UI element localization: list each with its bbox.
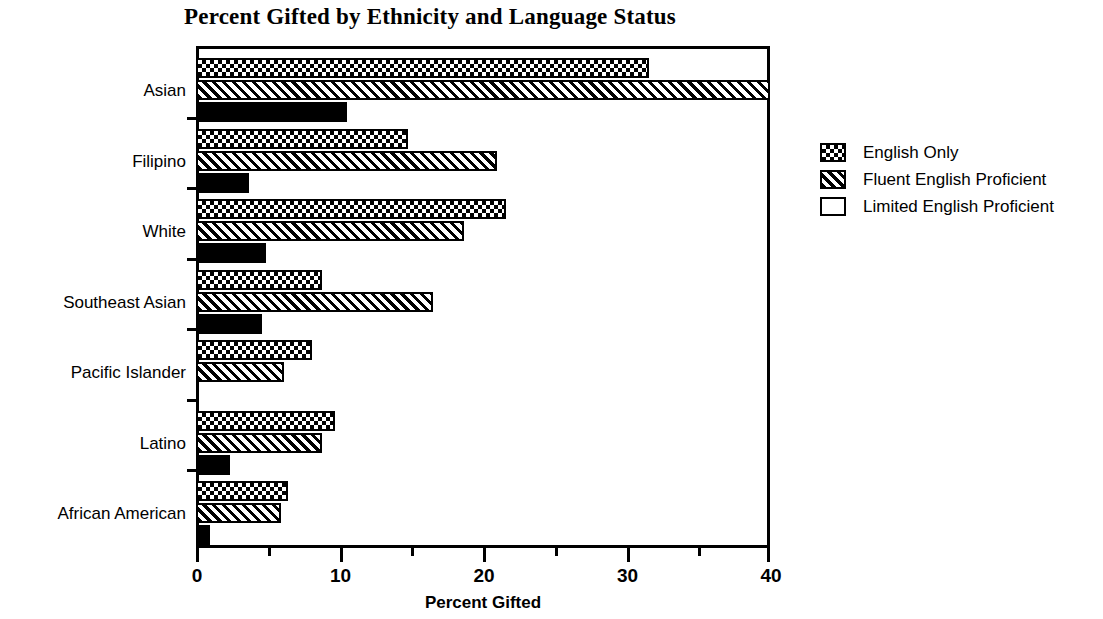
y-axis-label: Southeast Asian <box>63 294 186 311</box>
x-axis-tick-label: 10 <box>311 566 371 585</box>
bar-group <box>196 58 770 122</box>
x-axis-tick-label: 40 <box>741 566 801 585</box>
bar <box>196 481 288 501</box>
y-axis-label: White <box>143 223 186 240</box>
bar <box>196 362 284 382</box>
legend-item: Limited English Proficient <box>820 193 1054 220</box>
bar <box>196 151 497 171</box>
x-axis-tick-minor <box>698 545 701 556</box>
legend-swatch-icon <box>820 170 846 189</box>
bar <box>196 455 230 475</box>
bar-group <box>196 270 770 334</box>
bar <box>196 199 506 219</box>
x-axis-tick-major <box>483 545 486 562</box>
chart-legend: English OnlyFluent English ProficientLim… <box>820 139 1054 220</box>
bar <box>196 411 335 431</box>
bar <box>196 525 210 545</box>
x-axis-tick-label: 0 <box>167 566 227 585</box>
x-axis-tick-label: 20 <box>454 566 514 585</box>
bar <box>196 80 770 100</box>
bar-group <box>196 340 770 404</box>
bar <box>196 340 312 360</box>
bar <box>196 433 322 453</box>
y-axis-tick <box>187 117 196 120</box>
legend-label: Fluent English Proficient <box>863 171 1046 188</box>
legend-item: English Only <box>820 139 1054 166</box>
x-axis-tick-label: 30 <box>598 566 658 585</box>
x-axis-tick-minor <box>555 545 558 556</box>
bar <box>196 102 347 122</box>
x-axis-tick-major <box>767 545 770 562</box>
bar <box>196 292 433 312</box>
chart-title: Percent Gifted by Ethnicity and Language… <box>0 4 860 30</box>
bar <box>196 314 262 334</box>
y-axis-label: African American <box>58 505 187 522</box>
bar <box>196 129 408 149</box>
y-axis-tick <box>187 469 196 472</box>
legend-item: Fluent English Proficient <box>820 166 1054 193</box>
x-axis-tick-major <box>627 545 630 562</box>
plot-area <box>196 46 770 548</box>
bar <box>196 173 249 193</box>
legend-swatch-icon <box>820 197 846 216</box>
y-axis-tick <box>187 258 196 261</box>
y-axis-tick <box>187 328 196 331</box>
bar-group <box>196 199 770 263</box>
bar-group <box>196 411 770 475</box>
y-axis-label: Filipino <box>132 153 186 170</box>
legend-label: Limited English Proficient <box>863 198 1054 215</box>
legend-swatch-icon <box>820 143 846 162</box>
y-axis-label: Asian <box>143 82 186 99</box>
x-axis-title: Percent Gifted <box>196 594 770 611</box>
bar <box>196 270 322 290</box>
bar-group <box>196 129 770 193</box>
bar-group <box>196 481 770 545</box>
bar <box>196 503 281 523</box>
y-axis-category-labels: AsianFilipinoWhiteSoutheast AsianPacific… <box>0 46 186 548</box>
x-axis-tick-minor <box>411 545 414 556</box>
legend-label: English Only <box>863 144 958 161</box>
bar <box>196 243 266 263</box>
x-axis-tick-major <box>340 545 343 562</box>
bar <box>196 58 649 78</box>
y-axis-label: Latino <box>140 435 186 452</box>
axis-top-line <box>196 46 770 49</box>
y-axis-tick <box>187 399 196 402</box>
y-axis-tick <box>187 187 196 190</box>
bar <box>196 221 464 241</box>
y-axis-label: Pacific Islander <box>71 364 186 381</box>
x-axis-tick-minor <box>268 545 271 556</box>
x-axis-tick-major <box>196 545 199 562</box>
